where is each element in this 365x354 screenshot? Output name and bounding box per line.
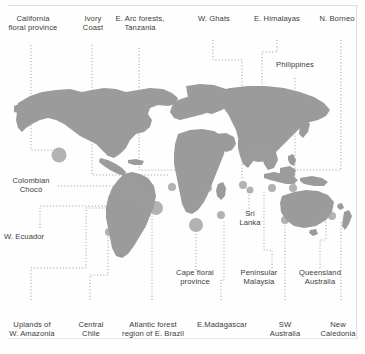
label-central-chile: Central Chile (66, 320, 116, 339)
hotspot-sw-australia (281, 216, 289, 224)
label-sw-australia: SW Australia (258, 320, 312, 339)
hotspot-ivory-coast (168, 183, 176, 191)
hotspot-e-madagascar (217, 211, 225, 219)
leader-central-chile (90, 236, 108, 300)
leader-e-madagascar (221, 220, 224, 300)
hotspot-n-borneo (281, 169, 295, 183)
label-philippines: Philippines (266, 60, 324, 69)
label-atlantic-forest-e-brazil: Atlantic forest region of E. Brazil (116, 320, 190, 339)
label-cape-floral-province: Cape floral province (162, 268, 228, 287)
leader-atlantic-brazil (150, 215, 152, 300)
hotspot-uplands-w-amazonia (135, 191, 150, 206)
hotspot-e-arc-forests-tanzania (204, 184, 212, 192)
label-w-ghats: W. Ghats (190, 14, 238, 23)
label-sri-lanka: Sri Lanka (230, 209, 270, 228)
biodiversity-hotspots-figure: California floral province Ivory Coast E… (0, 0, 365, 354)
hotspot-central-chile (105, 228, 113, 236)
label-e-madagascar: E.Madagascar (190, 320, 254, 329)
map-landmasses (14, 84, 352, 258)
label-uplands-of-w-amazonia: Uplands of W. Amazonia (0, 320, 64, 339)
label-california-floral-province: California floral province (0, 14, 66, 33)
hotspot-atlantic-forest-e-brazil (149, 201, 163, 215)
label-w-ecuador: W. Ecuador (4, 232, 64, 241)
hotspot-philippines (289, 184, 297, 192)
hotspot-peninsular-malaysia (268, 184, 276, 192)
label-peninsular-malaysia: Peninsular Malaysia (228, 268, 290, 287)
hotspot-cape-floral-province (189, 218, 203, 232)
label-new-caledonia: New Caledonia (312, 320, 364, 339)
label-colombian-choco: Colombian Chocó (4, 176, 58, 195)
label-e-himalayas: E. Himalayas (246, 14, 308, 23)
label-ivory-coast: Ivory Coast (70, 14, 116, 33)
leader-peninsular-malaysia (264, 192, 272, 268)
hotspot-e-himalayas (252, 144, 270, 162)
label-queensland-australia: Queensland Australia (284, 268, 356, 287)
hotspot-w-ghats (239, 181, 247, 189)
leader-queensland (320, 219, 326, 268)
label-e-arc-forests-tanzania: E. Arc forests, Tanzania (112, 14, 168, 33)
hotspot-w-ecuador (120, 193, 129, 202)
hotspot-california-floral-province (52, 148, 67, 163)
hotspot-sri-lanka (247, 187, 254, 194)
label-n-borneo: N. Borneo (312, 14, 362, 23)
hotspot-new-caledonia (328, 212, 336, 220)
